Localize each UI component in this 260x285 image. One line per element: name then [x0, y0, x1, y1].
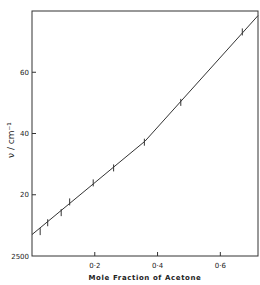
fit-line	[32, 16, 258, 235]
x-tick-label: 0·2	[89, 262, 100, 270]
plot-frame	[32, 11, 258, 256]
y-axis-title: ν / cm⁻¹	[6, 122, 16, 158]
data-series	[32, 16, 258, 236]
chart: 2500204060 0·20·40·6 Mole Fraction of Ac…	[0, 0, 260, 285]
x-axis-title: Mole Fraction of Acetone	[89, 274, 202, 282]
x-tick-label: 0·6	[215, 262, 227, 270]
y-tick-label: 20	[20, 191, 29, 199]
x-tick-label: 0·4	[152, 262, 164, 270]
x-axis: 0·20·40·6	[89, 252, 226, 270]
y-tick-label: 2500	[11, 253, 29, 261]
y-tick-label: 60	[20, 69, 29, 77]
y-tick-label: 40	[20, 130, 29, 138]
